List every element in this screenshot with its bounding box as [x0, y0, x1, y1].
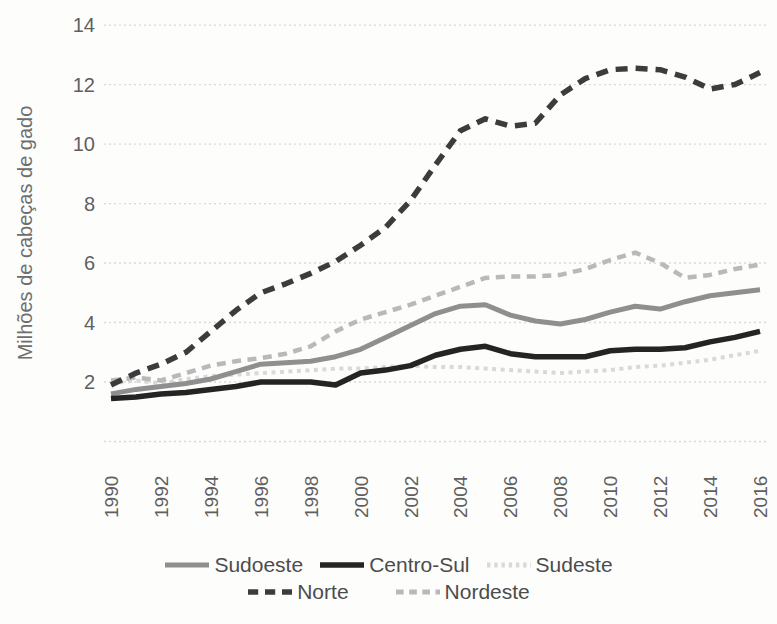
svg-text:2010: 2010 — [600, 476, 621, 518]
svg-text:2000: 2000 — [351, 476, 372, 518]
chart-series-lines — [111, 68, 760, 398]
legend-label-norte: Norte — [297, 580, 348, 604]
sudeste-line-swatch — [486, 560, 532, 570]
svg-text:2014: 2014 — [700, 475, 721, 518]
svg-text:1998: 1998 — [301, 476, 322, 518]
y-axis-title: Milhões de cabeças de gado — [14, 106, 36, 361]
svg-text:4: 4 — [84, 312, 95, 334]
chart-legend: Sudoeste Centro-Sul Sudeste Norte Nordes… — [0, 553, 777, 604]
svg-text:1996: 1996 — [251, 476, 272, 518]
legend-label-centro-sul: Centro-Sul — [369, 553, 469, 577]
svg-text:2012: 2012 — [650, 476, 671, 518]
svg-text:2: 2 — [84, 371, 95, 393]
cattle-herd-line-chart-figure: 2468101214 19901992199419961998200020022… — [0, 0, 777, 624]
svg-text:2002: 2002 — [401, 476, 422, 518]
line-chart-plot: 2468101214 19901992199419961998200020022… — [0, 0, 777, 535]
legend-label-sudoeste: Sudoeste — [214, 553, 303, 577]
nordeste-line-swatch — [395, 587, 441, 597]
norte-line-swatch — [247, 587, 293, 597]
svg-text:1992: 1992 — [151, 476, 172, 518]
legend-item-sudoeste: Sudoeste — [164, 553, 303, 577]
svg-text:14: 14 — [73, 14, 95, 36]
legend-label-sudeste: Sudeste — [536, 553, 613, 577]
svg-text:6: 6 — [84, 252, 95, 274]
svg-text:12: 12 — [73, 74, 95, 96]
legend-label-nordeste: Nordeste — [445, 580, 530, 604]
legend-row-2: Norte Nordeste — [247, 580, 530, 604]
y-axis-tick-labels: 2468101214 — [73, 14, 95, 393]
x-axis-tick-labels: 1990199219941996199820002002200420062008… — [101, 475, 771, 518]
centro-sul-line-swatch — [319, 560, 365, 570]
legend-item-sudeste: Sudeste — [486, 553, 613, 577]
sudoeste-line-swatch — [164, 560, 210, 570]
svg-text:1994: 1994 — [201, 475, 222, 518]
legend-row-1: Sudoeste Centro-Sul Sudeste — [164, 553, 612, 577]
svg-text:2008: 2008 — [550, 476, 571, 518]
svg-text:1990: 1990 — [101, 476, 122, 518]
legend-item-centro-sul: Centro-Sul — [319, 553, 469, 577]
svg-text:2006: 2006 — [500, 476, 521, 518]
svg-text:2016: 2016 — [750, 476, 771, 518]
svg-text:10: 10 — [73, 133, 95, 155]
svg-text:8: 8 — [84, 193, 95, 215]
legend-item-norte: Norte — [247, 580, 348, 604]
svg-text:2004: 2004 — [450, 475, 471, 518]
legend-item-nordeste: Nordeste — [395, 580, 530, 604]
